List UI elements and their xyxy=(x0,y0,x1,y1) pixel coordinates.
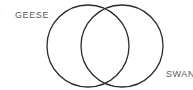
venn-circle-left xyxy=(47,5,129,87)
venn-diagram: GEESE SWANS xyxy=(0,0,193,90)
venn-label-right: SWANS xyxy=(166,70,193,79)
venn-label-left: GEESE xyxy=(15,11,49,20)
venn-circle-right xyxy=(81,5,163,87)
